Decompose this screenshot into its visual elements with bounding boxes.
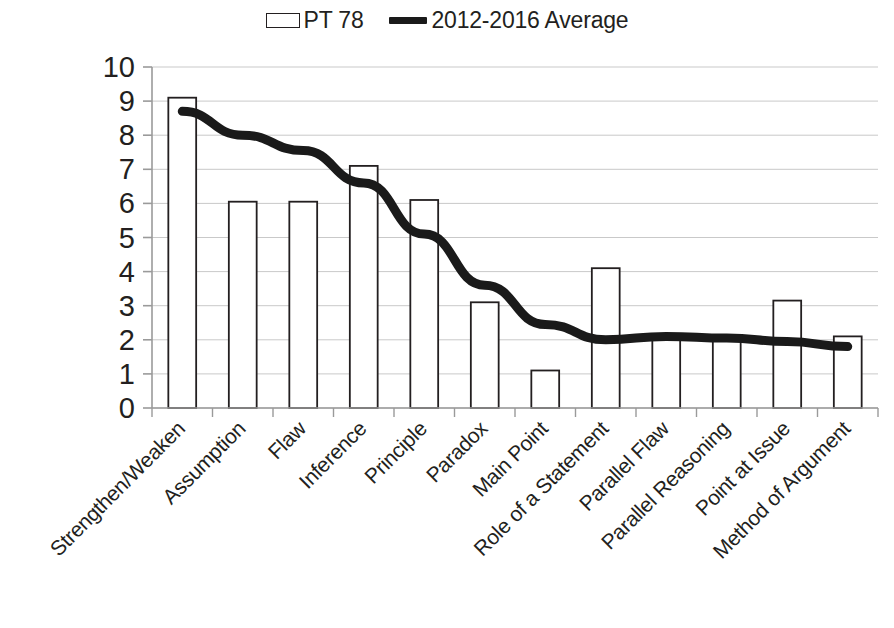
bar xyxy=(350,166,378,408)
y-axis-tick-label: 4 xyxy=(119,256,135,288)
average-line xyxy=(182,111,848,346)
y-axis-tick-label: 5 xyxy=(119,222,135,254)
y-axis-tick-label: 2 xyxy=(119,324,135,356)
y-axis-tick-label: 7 xyxy=(119,153,135,185)
bar xyxy=(168,98,196,408)
y-axis-tick-label: 1 xyxy=(119,358,135,390)
bar xyxy=(652,336,680,408)
y-axis-tick-label: 3 xyxy=(119,290,135,322)
y-axis-tick-label: 8 xyxy=(119,119,135,151)
y-axis-tick-label: 0 xyxy=(119,392,135,424)
x-axis-category-label: Principle xyxy=(360,417,431,488)
bar xyxy=(773,301,801,408)
x-axis-ticks-group xyxy=(152,408,878,417)
y-axis-tick-label: 9 xyxy=(119,85,135,117)
bar xyxy=(531,370,559,408)
bar xyxy=(471,302,499,408)
chart-plot: 012345678910 Strengthen/WeakenAssumption… xyxy=(0,0,894,628)
y-axis-tick-label: 6 xyxy=(119,187,135,219)
bar xyxy=(229,202,257,408)
y-axis-labels-group: 012345678910 xyxy=(103,51,135,424)
average-line-group xyxy=(182,111,848,346)
gridlines-group xyxy=(152,67,878,408)
x-axis-category-label: Flaw xyxy=(263,416,311,464)
y-axis-ticks-group xyxy=(143,67,152,408)
x-axis-category-label: Inference xyxy=(294,417,370,493)
x-axis-labels-group: Strengthen/WeakenAssumptionFlawInference… xyxy=(45,416,854,563)
y-axis-tick-label: 10 xyxy=(103,51,135,83)
bar xyxy=(289,202,317,408)
chart-container: PT 78 2012-2016 Average 012345678910 Str… xyxy=(0,0,894,628)
bar xyxy=(713,336,741,408)
